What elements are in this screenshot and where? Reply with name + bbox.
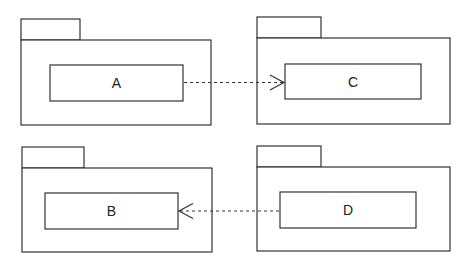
package-tab: [257, 17, 321, 38]
package-tab: [22, 147, 84, 168]
element-c-label: C: [348, 74, 358, 90]
package-tab: [257, 146, 321, 167]
element-a-label: A: [112, 75, 122, 91]
package-b: B: [22, 147, 212, 252]
package-c: C: [257, 17, 450, 124]
package-diagram: A C B D: [0, 0, 468, 265]
element-b-label: B: [107, 203, 116, 219]
element-d-label: D: [343, 202, 353, 218]
package-tab: [21, 19, 80, 40]
package-d: D: [257, 146, 450, 251]
package-a: A: [21, 19, 211, 125]
